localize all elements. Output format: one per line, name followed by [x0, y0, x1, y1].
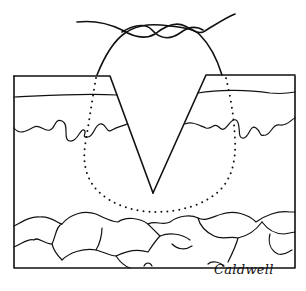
dermis-wavy-line — [14, 118, 295, 141]
outer-frame — [14, 76, 295, 268]
illustration-canvas — [0, 0, 306, 291]
skin-block-right — [153, 75, 295, 193]
surgical-suture-illustration: Caldwell — [0, 0, 306, 291]
suture-loop-dotted — [84, 78, 235, 212]
artist-signature: Caldwell — [214, 262, 274, 277]
epidermis-line — [14, 90, 295, 97]
suture-knot — [77, 14, 235, 75]
skin-block-left — [14, 76, 153, 193]
fat-lobules-layer — [14, 212, 295, 268]
